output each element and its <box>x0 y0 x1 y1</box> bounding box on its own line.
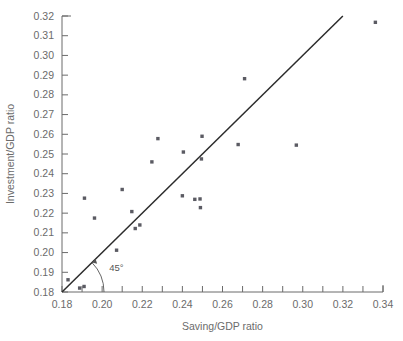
axes-group <box>62 16 383 292</box>
data-point-marker <box>138 223 141 226</box>
x-axis-title: Saving/GDP ratio <box>182 320 263 332</box>
y-tick-label: 0.30 <box>34 49 55 61</box>
data-point-marker <box>181 194 184 197</box>
y-tick-label: 0.26 <box>34 128 55 140</box>
data-point-marker <box>156 137 159 140</box>
x-tick-label: 0.30 <box>293 298 314 310</box>
y-tick-label: 0.19 <box>34 266 55 278</box>
y-tick-label: 0.18 <box>34 286 55 298</box>
data-point-marker <box>374 21 377 24</box>
angle-annotation-label: 45° <box>109 262 124 273</box>
y-tick-label: 0.23 <box>34 187 55 199</box>
y-axis-title: Investment/GDP ratio <box>4 104 16 204</box>
y-tick-label: 0.29 <box>34 69 55 81</box>
data-point-marker <box>82 285 85 288</box>
data-points-group <box>66 21 377 290</box>
data-point-marker <box>198 197 201 200</box>
x-tick-label: 0.32 <box>333 298 354 310</box>
y-tick-label: 0.25 <box>34 148 55 160</box>
x-tick-label: 0.18 <box>52 298 73 310</box>
x-tick-labels-group: 0.180.200.220.240.260.280.300.320.34 <box>52 298 394 310</box>
data-point-marker <box>199 206 202 209</box>
y-tick-marks-group <box>62 16 68 292</box>
data-point-marker <box>150 160 153 163</box>
data-point-marker <box>134 227 137 230</box>
forty-five-degree-line <box>62 16 343 292</box>
data-point-marker <box>182 150 185 153</box>
y-tick-label: 0.31 <box>34 29 55 41</box>
y-tick-labels-group: 0.180.190.200.210.220.230.240.250.260.27… <box>34 10 55 298</box>
y-tick-label: 0.32 <box>34 10 55 22</box>
data-point-marker <box>120 188 123 191</box>
y-tick-label: 0.21 <box>34 226 55 238</box>
x-tick-label: 0.22 <box>132 298 153 310</box>
data-point-marker <box>115 249 118 252</box>
x-tick-label: 0.24 <box>172 298 193 310</box>
data-point-marker <box>200 135 203 138</box>
data-point-marker <box>236 143 239 146</box>
data-point-marker <box>93 216 96 219</box>
data-point-marker <box>66 278 69 281</box>
forty-five-degree-reference-line-group <box>62 16 343 292</box>
data-point-marker <box>83 196 86 199</box>
y-tick-label: 0.22 <box>34 207 55 219</box>
angle-annotation-group: 45° <box>92 259 124 292</box>
x-tick-marks-group <box>62 286 383 292</box>
chart-svg-canvas: 0.180.200.220.240.260.280.300.320.34 0.1… <box>0 0 403 341</box>
y-tick-label: 0.20 <box>34 246 55 258</box>
data-point-marker <box>295 143 298 146</box>
y-tick-label: 0.28 <box>34 88 55 100</box>
y-tick-label: 0.27 <box>34 108 55 120</box>
scatter-chart-figure: 0.180.200.220.240.260.280.300.320.34 0.1… <box>0 0 403 341</box>
data-point-marker <box>78 286 81 289</box>
y-tick-label: 0.24 <box>34 167 55 179</box>
data-point-marker <box>130 210 133 213</box>
x-tick-label: 0.20 <box>92 298 113 310</box>
data-point-marker <box>243 77 246 80</box>
data-point-marker <box>193 198 196 201</box>
x-tick-label: 0.26 <box>212 298 233 310</box>
x-tick-label: 0.28 <box>252 298 273 310</box>
x-tick-label: 0.34 <box>373 298 394 310</box>
data-point-marker <box>200 157 203 160</box>
